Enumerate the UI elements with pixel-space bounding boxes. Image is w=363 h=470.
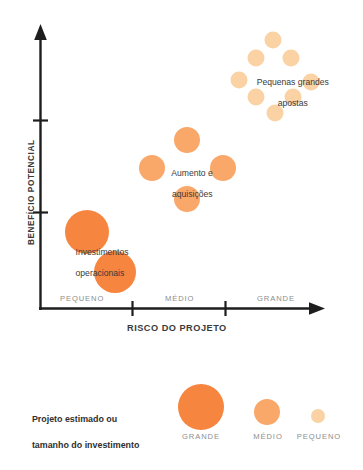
cluster-label-line-2: aquisições	[172, 189, 213, 199]
bubble-chart-figure: BENEFÍCIO POTENCIAL RISCO DO PROJETO PEQ…	[0, 0, 363, 470]
bubble-small	[265, 32, 282, 49]
legend-bubble-grande	[178, 384, 224, 430]
cluster-label-investimentos-operacionais: Investimentos operacionais	[66, 236, 156, 290]
legend-bubble-pequeno	[311, 409, 325, 423]
legend-bubble-medio	[254, 399, 280, 425]
legend-caption-line-2: tamanho do investimento	[32, 440, 140, 450]
cluster-label-line-1: Aumento e	[171, 168, 213, 178]
y-axis-title: BENEFÍCIO POTENCIAL	[27, 139, 37, 245]
legend-label-grande: GRANDE	[171, 432, 231, 441]
cluster-label-pequenas-grandes-apostas: Pequenas grandes apostas	[229, 66, 347, 120]
x-tick-label-pequeno: PEQUENO	[60, 294, 104, 303]
legend-caption: Projeto estimado ou tamanho do investime…	[22, 400, 172, 465]
x-axis-title: RISCO DO PROJETO	[127, 323, 227, 334]
bubble-small	[248, 50, 265, 67]
cluster-label-line-2: apostas	[278, 98, 308, 108]
x-axis	[39, 301, 325, 316]
x-tick-label-grande: GRANDE	[257, 294, 295, 303]
legend-label-pequeno: PEQUENO	[288, 432, 350, 441]
x-tick-label-medio: MÉDIO	[165, 294, 194, 303]
cluster-label-line-1: Pequenas grandes	[257, 77, 329, 87]
cluster-label-line-2: operacionais	[76, 268, 125, 278]
legend-caption-line-1: Projeto estimado ou	[32, 414, 117, 424]
bubble-medium	[174, 127, 200, 153]
legend-label-medio: MÉDIO	[242, 432, 294, 441]
cluster-label-aumento-e-aquisicoes: Aumento e aquisições	[150, 157, 225, 211]
cluster-label-line-1: Investimentos	[76, 247, 129, 257]
bubble-small	[283, 50, 300, 67]
legend-bubbles	[178, 384, 325, 430]
